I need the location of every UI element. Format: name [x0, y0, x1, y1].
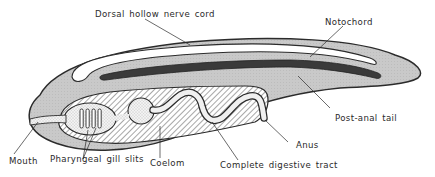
- label-notochord: Notochord: [325, 17, 373, 27]
- pharynx: [64, 103, 116, 135]
- label-post-anal-tail: Post-anal tail: [335, 113, 397, 123]
- label-anus: Anus: [296, 140, 319, 150]
- label-mouth: Mouth: [9, 156, 38, 166]
- label-coelom: Coelom: [150, 158, 185, 168]
- label-pharyngeal-gill-slits: Pharyngeal gill slits: [50, 154, 144, 164]
- label-complete-digestive-tract: Complete digestive tract: [220, 160, 338, 170]
- label-dorsal-nerve-cord: Dorsal hollow nerve cord: [95, 9, 215, 19]
- chordate-diagram: Dorsal hollow nerve cord Notochord Post-…: [0, 0, 435, 177]
